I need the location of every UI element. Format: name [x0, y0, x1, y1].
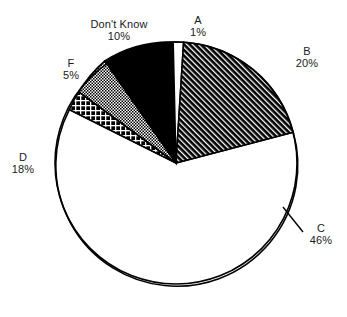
pie-label-c: C 46% — [304, 222, 338, 247]
pie-label-dont-know: Don't Know 10% — [77, 18, 161, 43]
pie-label-f: F 5% — [58, 57, 84, 82]
pie-label-a-value: 1% — [183, 26, 213, 38]
pie-label-f-value: 5% — [58, 69, 84, 81]
pie-chart: Don't Know 10% A 1% B 20% C 46% D 18% F … — [0, 0, 347, 317]
pie-label-d: D 18% — [6, 151, 40, 176]
pie-label-a: A 1% — [183, 14, 213, 39]
leader-line-c — [283, 207, 303, 232]
pie-label-c-name: C — [304, 222, 338, 234]
pie-label-dont-know-name: Don't Know — [77, 18, 161, 30]
pie-label-c-value: 46% — [304, 234, 338, 246]
pie-label-b-name: B — [290, 45, 324, 57]
pie-label-d-name: D — [6, 151, 40, 163]
pie-label-a-name: A — [183, 14, 213, 26]
pie-label-b: B 20% — [290, 45, 324, 70]
pie-label-d-value: 18% — [6, 163, 40, 175]
pie-label-dont-know-value: 10% — [77, 30, 161, 42]
pie-label-b-value: 20% — [290, 57, 324, 69]
pie-label-f-name: F — [58, 57, 84, 69]
